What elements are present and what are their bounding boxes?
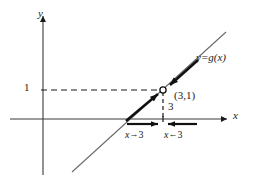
- x-tick-label-3: 3: [168, 101, 174, 112]
- limit-graph-figure: y x 1 3 (3,1) y=g(x) x→3 x←3: [0, 0, 264, 187]
- y-tick-label-1: 1: [24, 82, 30, 93]
- function-curve-label: y=g(x): [196, 52, 226, 63]
- graph-canvas: [0, 0, 264, 187]
- x-axis-label: x: [233, 110, 238, 121]
- curve-arrow-from-left: [126, 94, 158, 121]
- left-approach-label: x→3: [125, 130, 143, 140]
- curve-arrow-from-right: [170, 60, 198, 85]
- right-approach-label: x←3: [164, 130, 182, 140]
- y-axis-label: y: [38, 8, 43, 19]
- right-approach-value: 3: [177, 129, 182, 140]
- point-coordinate-label: (3,1): [174, 90, 195, 101]
- open-circle-marker: [160, 87, 166, 93]
- left-approach-value: 3: [138, 129, 143, 140]
